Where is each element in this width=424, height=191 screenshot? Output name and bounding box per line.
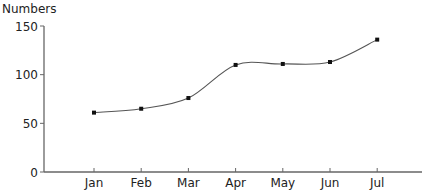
data-point xyxy=(92,111,96,115)
x-tick-label: Jul xyxy=(369,176,384,190)
data-point xyxy=(186,96,190,100)
x-tick-label: Jan xyxy=(84,176,104,190)
x-axis: JanFebMarAprMayJunJul xyxy=(44,168,422,190)
x-tick-label: May xyxy=(270,176,295,190)
y-tick-label: 150 xyxy=(15,20,38,34)
data-point xyxy=(234,63,238,67)
x-tick-label: Feb xyxy=(131,176,152,190)
series-line xyxy=(94,40,377,113)
x-tick-label: Apr xyxy=(225,176,246,190)
y-tick-label: 50 xyxy=(23,117,38,131)
x-tick-label: Mar xyxy=(177,176,200,190)
line-chart: Numbers 050100150 JanFebMarAprMayJunJul xyxy=(0,0,424,191)
data-markers xyxy=(92,38,379,115)
x-tick-label: Jun xyxy=(320,176,340,190)
y-axis: 050100150 xyxy=(15,20,44,180)
data-point xyxy=(375,38,379,42)
y-tick-label: 100 xyxy=(15,68,38,82)
data-point xyxy=(281,62,285,66)
y-tick-label: 0 xyxy=(30,166,38,180)
data-point xyxy=(328,60,332,64)
data-point xyxy=(139,107,143,111)
y-axis-label: Numbers xyxy=(2,2,56,16)
